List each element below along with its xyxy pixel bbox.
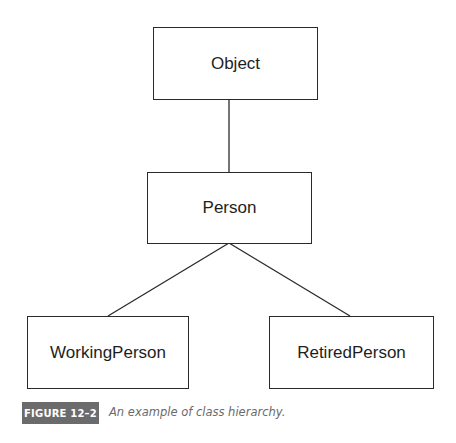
figure-caption: An example of class hierarchy. bbox=[109, 405, 285, 419]
retiredperson-class-box: RetiredPerson bbox=[269, 316, 434, 389]
person-class-box: Person bbox=[147, 172, 312, 244]
workingperson-class-box: WorkingPerson bbox=[27, 316, 189, 389]
edge-person-workingperson bbox=[108, 243, 229, 316]
edge-person-retiredperson bbox=[229, 243, 350, 316]
workingperson-class-label: WorkingPerson bbox=[50, 343, 166, 363]
figure-number-badge: FIGURE 12–2 bbox=[22, 402, 99, 424]
person-class-label: Person bbox=[203, 198, 257, 218]
object-class-box: Object bbox=[153, 27, 318, 100]
object-class-label: Object bbox=[211, 54, 260, 74]
figure-number: FIGURE 12–2 bbox=[24, 408, 97, 419]
retiredperson-class-label: RetiredPerson bbox=[297, 343, 406, 363]
